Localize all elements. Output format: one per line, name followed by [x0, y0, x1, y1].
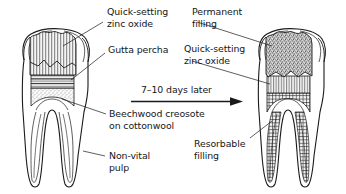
label-quick-setting-zinc-oxide-line2: zinc oxide: [107, 18, 153, 29]
left-pulp-canal-distal-inner: [63, 114, 70, 178]
label-beechwood-creosote-line1: Beechwood creosote: [109, 108, 205, 119]
label-resorbable-filling-line2: filling: [194, 150, 219, 161]
figure-canvas: Quick-setting zinc oxide Gutta percha Be…: [0, 0, 346, 194]
label-right-quick-setting-zinc-oxide-line2: zinc oxide: [184, 55, 230, 66]
leader-left-non-vital-pulp: [83, 151, 105, 156]
left-zinc-oxide-dressing: [30, 32, 76, 75]
label-permanent-filling-line1: Permanent: [192, 6, 243, 17]
right-permanent-filling: [266, 32, 312, 77]
label-right-quick-setting-zinc-oxide-line1: Quick-setting: [184, 43, 245, 54]
dental-treatment-figure: Quick-setting zinc oxide Gutta percha Be…: [0, 0, 346, 194]
label-non-vital-pulp-line2: pulp: [109, 162, 129, 173]
transition-caption: 7–10 days later: [141, 84, 212, 95]
left-tooth-illustration: [22, 29, 89, 187]
label-permanent-filling-line2: filling: [192, 18, 217, 29]
label-beechwood-creosote-line2: on cottonwool: [109, 120, 174, 131]
right-zinc-oxide-base: [267, 76, 310, 93]
label-gutta-percha: Gutta percha: [108, 44, 168, 55]
label-quick-setting-zinc-oxide-line1: Quick-setting: [107, 6, 168, 17]
right-tooth-illustration: [258, 29, 325, 187]
label-non-vital-pulp-line1: Non-vital: [109, 150, 150, 161]
left-gutta-percha-band: [31, 75, 74, 88]
left-pulp-canal-mesial-inner: [34, 114, 41, 178]
label-resorbable-filling-line1: Resorbable: [194, 138, 246, 149]
arrow-head-icon: [230, 97, 243, 106]
left-cottonwool-band: [31, 88, 74, 106]
transition-arrow: [131, 97, 243, 106]
left-dentine-contour: [36, 99, 68, 110]
